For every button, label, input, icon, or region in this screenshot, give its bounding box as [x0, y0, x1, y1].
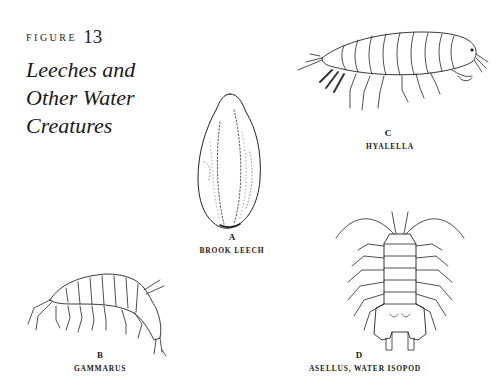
asellus-illustration: [330, 204, 470, 352]
illustration-letter-c: C: [378, 128, 398, 138]
illustration-caption-a: BROOK LEECH: [192, 246, 272, 255]
illustration-letter-d: D: [349, 350, 369, 360]
figure-label-text: FIGURE: [26, 32, 77, 43]
figure-title: Leeches and Other Water Creatures: [26, 56, 135, 140]
illustration-letter-a: A: [222, 232, 242, 242]
gammarus-illustration: [26, 268, 176, 358]
illustration-caption-b: GAMMARUS: [60, 364, 140, 373]
illustration-caption-c: HYALELLA: [350, 142, 430, 151]
title-line: Leeches and: [26, 56, 135, 84]
figure-number: 13: [83, 26, 102, 47]
title-line: Creatures: [26, 112, 135, 140]
illustration-caption-d: ASELLUS, WATER ISOPOD: [300, 364, 430, 373]
illustration-letter-b: B: [90, 350, 110, 360]
figure-label: FIGURE13: [26, 24, 102, 46]
brook-leech-illustration: [190, 92, 270, 232]
hyalella-illustration: [292, 28, 492, 128]
title-line: Other Water: [26, 84, 135, 112]
